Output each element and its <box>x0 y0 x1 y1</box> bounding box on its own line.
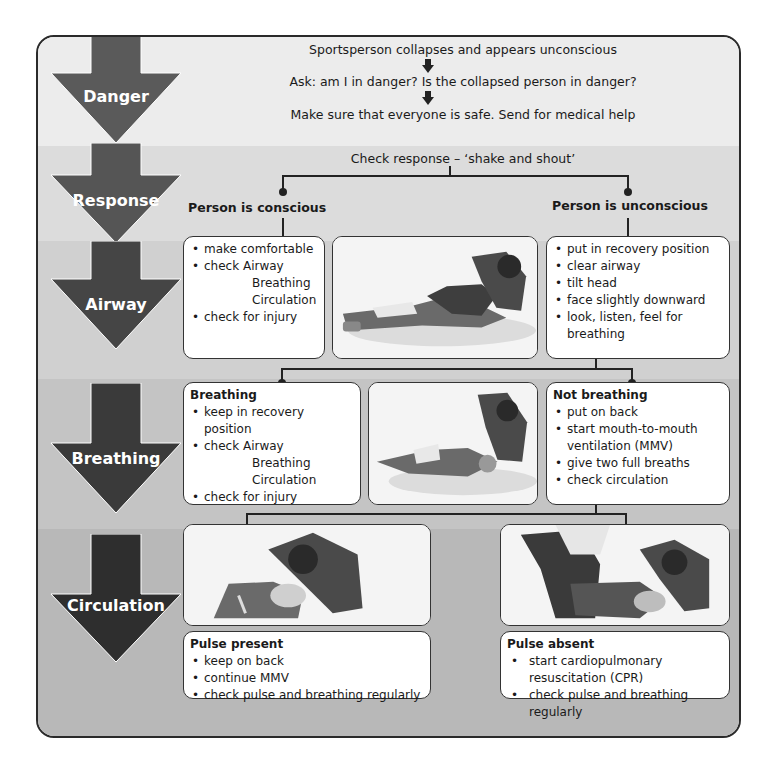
list-item: put in recovery position <box>553 241 723 258</box>
list-item: start cardiopulmonary resuscitation (CPR… <box>507 653 723 687</box>
airway-arrow-icon: Airway <box>46 241 186 381</box>
circulation-arrow-icon: Circulation <box>46 534 186 694</box>
flowchart-frame: Danger Response Airway Breathing Circula… <box>36 35 741 738</box>
recovery-position-check-illustration <box>368 382 538 505</box>
connector-line <box>246 513 627 515</box>
response-check-text: Check response – ‘shake and shout’ <box>188 151 738 166</box>
connector-dot-icon <box>624 188 632 196</box>
down-arrow-icon <box>422 91 434 105</box>
danger-step-safe: Make sure that everyone is safe. Send fo… <box>188 107 738 122</box>
list-item: clear airway <box>553 258 723 275</box>
list-item: continue MMV <box>190 670 424 687</box>
list-item: check pulse and breathing regularly <box>190 687 424 704</box>
response-conscious-label: Person is conscious <box>188 200 326 215</box>
pulse-present-title: Pulse present <box>190 636 424 653</box>
breathing-arrow-icon: Breathing <box>46 383 186 533</box>
connector-line <box>627 218 629 236</box>
unconscious-actions-box: put in recovery position clear airway ti… <box>546 236 730 359</box>
list-item: check Airway <box>190 438 354 455</box>
recovery-position-illustration <box>332 236 538 359</box>
connector-dot-icon <box>279 188 287 196</box>
list-item: give two full breaths <box>553 455 723 472</box>
pulse-present-box: Pulse present keep on back continue MMV … <box>183 631 431 699</box>
list-item: check pulse and breathing regularly <box>507 687 723 721</box>
pulse-absent-box: Pulse absent start cardiopulmonary resus… <box>500 631 730 699</box>
list-item: look, listen, feel for breathing <box>553 309 723 343</box>
list-subitem: Circulation <box>190 292 318 309</box>
list-item: check circulation <box>553 472 723 489</box>
list-item: face slightly downward <box>553 292 723 309</box>
danger-step-collapse: Sportsperson collapses and appears uncon… <box>188 42 738 57</box>
conscious-actions-box: make comfortable check Airway Breathing … <box>183 236 325 359</box>
list-item: make comfortable <box>190 241 318 258</box>
list-item: tilt head <box>553 275 723 292</box>
stage-label-breathing: Breathing <box>46 449 186 468</box>
connector-line <box>281 368 633 370</box>
mouth-to-mouth-illustration <box>183 524 431 626</box>
connector-line <box>282 218 284 236</box>
list-item: keep on back <box>190 653 424 670</box>
stage-label-response: Response <box>46 191 186 210</box>
stage-label-danger: Danger <box>46 87 186 106</box>
list-item: check Airway <box>190 258 318 275</box>
response-unconscious-label: Person is unconscious <box>552 198 708 213</box>
stage-label-circulation: Circulation <box>46 596 186 615</box>
breathing-actions-box: Breathing keep in recovery position chec… <box>183 382 361 505</box>
list-item: keep in recovery position <box>190 404 354 438</box>
not-breathing-box-title: Not breathing <box>553 387 723 404</box>
not-breathing-actions-box: Not breathing put on back start mouth-to… <box>546 382 730 505</box>
danger-step-ask: Ask: am I in danger? Is the collapsed pe… <box>188 74 738 89</box>
list-subitem: Breathing <box>190 455 354 472</box>
list-item: put on back <box>553 404 723 421</box>
list-subitem: Breathing <box>190 275 318 292</box>
stage-label-airway: Airway <box>46 295 186 314</box>
list-subitem: Circulation <box>190 472 354 489</box>
down-arrow-icon <box>422 59 434 73</box>
connector-line <box>282 175 628 177</box>
list-item: check for injury <box>190 309 318 326</box>
cpr-two-rescuers-illustration <box>500 524 730 626</box>
breathing-box-title: Breathing <box>190 387 354 404</box>
pulse-absent-title: Pulse absent <box>507 636 723 653</box>
list-item: check for injury <box>190 489 354 506</box>
list-item: start mouth-to-mouth ventilation (MMV) <box>553 421 723 455</box>
